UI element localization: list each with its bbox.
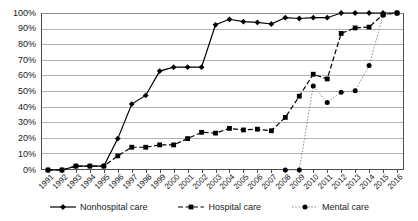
series-nonhospital-care — [45, 10, 400, 173]
series-layer — [0, 0, 418, 221]
legend-item-hospital-care[interactable]: Hospital care — [177, 202, 261, 212]
legend-item-mental-care[interactable]: Mental care — [291, 202, 369, 212]
legend-swatch-square-icon — [177, 202, 205, 212]
legend-label: Mental care — [322, 202, 369, 212]
legend-item-nonhospital-care[interactable]: Nonhospital care — [49, 202, 148, 212]
legend-swatch-diamond-icon — [49, 202, 77, 212]
line-chart: 100%90%80%70%60%50%40%30%20%10%0% 199119… — [0, 0, 418, 221]
legend-label: Nonhospital care — [80, 202, 148, 212]
legend-label: Hospital care — [208, 202, 261, 212]
legend-swatch-circle-icon — [291, 202, 319, 212]
chart-legend: Nonhospital careHospital careMental care — [0, 200, 418, 214]
series-hospital-care — [46, 11, 400, 173]
